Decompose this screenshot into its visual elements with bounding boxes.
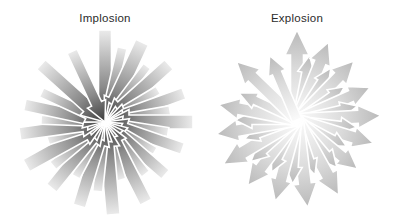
implosion-label: Implosion	[79, 13, 130, 25]
explosion-burst-group	[214, 30, 381, 209]
arrow-burst-illustration	[0, 0, 405, 221]
implosion-burst-group	[18, 30, 193, 216]
figure-canvas: Implosion Explosion	[0, 0, 405, 221]
explosion-label: Explosion	[271, 13, 323, 25]
